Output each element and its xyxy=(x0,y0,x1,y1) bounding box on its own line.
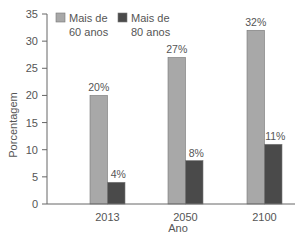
y-tick-label: 20 xyxy=(26,89,38,101)
x-tick-label: 2013 xyxy=(95,211,119,223)
y-tick-label: 15 xyxy=(26,117,38,129)
legend: Mais de60 anosMais de80 anos xyxy=(56,12,171,38)
bar xyxy=(247,30,265,204)
legend-label-line2: 60 anos xyxy=(69,26,109,38)
bar-value-label: 8% xyxy=(189,147,204,159)
y-axis: 05101520253035 xyxy=(26,8,47,210)
bar-chart: 05101520253035 20%4%27%8%32%11% 20132050… xyxy=(0,0,295,240)
y-axis-label: Porcentagem xyxy=(7,92,19,157)
y-tick-label: 30 xyxy=(26,35,38,47)
bar-value-label: 32% xyxy=(245,16,266,28)
x-tick-label: 2100 xyxy=(252,211,276,223)
bars: 20%4%27%8%32%11% xyxy=(88,16,285,204)
bar-value-label: 11% xyxy=(265,130,285,142)
x-axis-label: Ano xyxy=(168,222,188,234)
bar-value-label: 4% xyxy=(111,168,126,180)
legend-label-line1: Mais de xyxy=(69,12,108,24)
bar xyxy=(90,95,108,204)
legend-label-line2: 80 anos xyxy=(131,26,171,38)
y-tick-label: 35 xyxy=(26,8,38,20)
bar-value-label: 27% xyxy=(166,43,187,55)
legend-label-line1: Mais de xyxy=(131,12,170,24)
bar-value-label: 20% xyxy=(88,81,109,93)
y-tick-label: 5 xyxy=(32,171,38,183)
y-tick-label: 0 xyxy=(32,198,38,210)
legend-swatch xyxy=(56,13,65,22)
bar xyxy=(108,182,126,204)
bar xyxy=(168,57,186,204)
x-axis: 201320502100 xyxy=(47,204,295,223)
y-tick-label: 10 xyxy=(26,144,38,156)
legend-swatch xyxy=(118,13,127,22)
bar xyxy=(265,144,283,204)
y-tick-label: 25 xyxy=(26,62,38,74)
bar xyxy=(186,161,204,204)
